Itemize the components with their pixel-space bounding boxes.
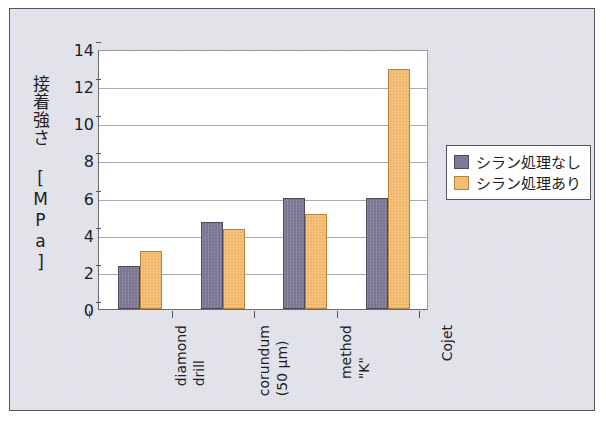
x-axis-tick-mark <box>419 311 420 318</box>
gridline <box>99 88 427 89</box>
x-axis-tick-label: method"K" <box>277 325 373 379</box>
bar-texture <box>119 267 139 308</box>
bar <box>201 222 223 309</box>
x-axis-tick-mark <box>337 311 338 318</box>
legend-item-with-silane: シラン処理あり <box>454 172 581 193</box>
y-axis-tick-label: 12 <box>58 78 94 97</box>
bar-texture <box>367 199 387 308</box>
legend-item-no-silane: シラン処理なし <box>454 151 581 172</box>
bar-texture <box>141 252 161 308</box>
chart-frame: 接着強さ [MPa] 14121086420 シラン処理なし シラン処理あり d… <box>9 8 595 411</box>
bar <box>388 69 410 309</box>
bar-texture <box>284 199 304 308</box>
x-axis-tick-label: Cojet <box>360 325 456 361</box>
gridline <box>99 125 427 126</box>
legend-swatch-with-silane <box>454 176 469 190</box>
y-axis-tick-labels: 14121086420 <box>54 50 94 310</box>
y-axis-tick-label: 14 <box>58 41 94 60</box>
legend-label-with-silane: シラン処理あり <box>476 172 581 193</box>
x-axis-tick-mark <box>89 311 90 318</box>
y-axis-tick-mark <box>96 116 101 117</box>
y-axis-tick-label: 2 <box>58 263 94 282</box>
y-axis-tick-mark <box>96 228 101 229</box>
chart-figure: 接着強さ [MPa] 14121086420 シラン処理なし シラン処理あり d… <box>0 0 606 423</box>
plot-area <box>98 50 428 310</box>
bar-texture <box>202 223 222 308</box>
x-axis-tick-mark <box>172 311 173 318</box>
chart-legend: シラン処理なし シラン処理あり <box>446 145 591 200</box>
y-axis-tick-mark <box>96 191 101 192</box>
bar <box>366 198 388 309</box>
bar <box>223 229 245 309</box>
y-axis-tick-mark <box>96 79 101 80</box>
y-axis-tick-label: 8 <box>58 152 94 171</box>
y-axis-tick-mark <box>96 153 101 154</box>
bar-texture <box>389 70 409 308</box>
y-axis-tick-mark <box>96 265 101 266</box>
bar <box>305 214 327 309</box>
y-axis-tick-label: 4 <box>58 226 94 245</box>
bar-texture <box>224 230 244 308</box>
bar <box>140 251 162 309</box>
gridline <box>99 162 427 163</box>
bar <box>118 266 140 309</box>
bar-texture <box>306 215 326 308</box>
legend-swatch-no-silane <box>454 155 469 169</box>
x-axis-tick-label: diamonddrill <box>112 325 208 386</box>
y-axis-title: 接着強さ [MPa] <box>24 71 58 276</box>
legend-label-no-silane: シラン処理なし <box>476 151 581 172</box>
y-axis-tick-label: 6 <box>58 189 94 208</box>
y-axis-tick-mark <box>96 302 101 303</box>
y-axis-tick-label: 10 <box>58 115 94 134</box>
x-axis-tick-mark <box>254 311 255 318</box>
y-axis-tick-mark <box>96 42 101 43</box>
bar <box>283 198 305 309</box>
